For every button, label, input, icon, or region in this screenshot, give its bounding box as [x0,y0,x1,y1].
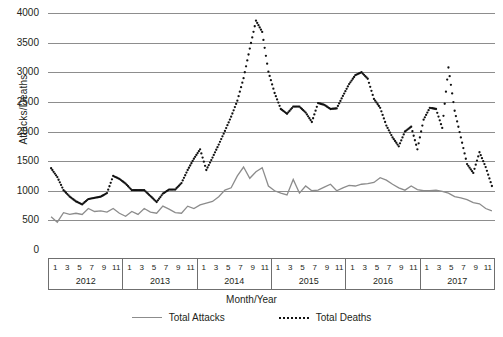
x-axis-month-label: 5 [222,261,234,275]
y-axis-tick-label: 2000 [17,127,39,137]
y-axis-tick-label: 1000 [17,186,39,196]
x-axis-month-label: 11 [184,261,196,275]
legend-label-total-deaths: Total Deaths [316,312,372,323]
x-axis-year-cell: 13579112016 [346,259,420,289]
x-axis-month-ticks: 1357911 [346,261,419,275]
series-line-0 [51,167,492,222]
x-axis-month-label: 3 [433,261,445,275]
x-axis-month-label: 5 [445,261,457,275]
series-lines [48,13,495,250]
x-axis-title: Month/Year [0,294,503,305]
x-axis-year-label: 2015 [272,274,345,289]
x-axis-month-label: 7 [86,261,98,275]
x-axis-month-label: 9 [247,261,259,275]
chart-container: Attacks/Deaths 0500100015002000250030003… [0,0,503,337]
y-axis-tick-label: 2500 [17,97,39,107]
x-axis-month-label: 11 [333,261,345,275]
x-axis-month-label: 11 [259,261,271,275]
x-axis-month-label: 11 [407,261,419,275]
x-axis-year-label: 2013 [123,274,196,289]
legend-item-total-attacks: Total Attacks [132,312,225,323]
x-axis-month-label: 5 [371,261,383,275]
x-axis-month-label: 3 [359,261,371,275]
x-axis-month-label: 1 [421,261,433,275]
x-axis-year-label: 2017 [421,274,494,289]
x-axis-year-cell: 13579112017 [421,259,494,289]
legend-item-total-deaths: Total Deaths [279,312,372,323]
x-axis-month-ticks: 1357911 [272,261,345,275]
x-axis-month-label: 1 [49,261,61,275]
y-axis-tick-label: 1500 [17,156,39,166]
x-axis-month-label: 7 [383,261,395,275]
x-axis-month-ticks: 1357911 [421,261,494,275]
x-axis-month-ticks: 1357911 [49,261,122,275]
x-axis-month-label: 1 [346,261,358,275]
x-axis-year-cell: 13579112012 [49,259,123,289]
x-axis-month-label: 11 [482,261,494,275]
x-axis-month-label: 3 [136,261,148,275]
x-axis-month-label: 3 [284,261,296,275]
x-axis-month-label: 5 [296,261,308,275]
x-axis-month-label: 9 [98,261,110,275]
y-axis-tick-labels: 05001000150020002500300035004000 [0,0,44,263]
x-axis-month-ticks: 1357911 [198,261,271,275]
x-axis-month-label: 1 [123,261,135,275]
x-axis-month-label: 7 [160,261,172,275]
x-axis-month-ticks: 1357911 [123,261,196,275]
x-axis-month-label: 5 [148,261,160,275]
x-axis-month-label: 9 [321,261,333,275]
solid-line-swatch-icon [132,317,162,318]
x-axis-month-label: 7 [234,261,246,275]
y-axis-tick-label: 3500 [17,38,39,48]
x-axis-month-label: 9 [172,261,184,275]
x-axis-month-label: 5 [73,261,85,275]
series-dots-1 [50,20,493,206]
x-axis-year-cell: 13579112015 [272,259,346,289]
x-axis-year-label: 2012 [49,274,122,289]
x-axis-month-label: 3 [61,261,73,275]
x-axis-month-label: 9 [470,261,482,275]
y-axis-tick-label: 4000 [17,8,39,18]
dotted-line-swatch-icon [279,317,309,319]
y-axis-tick-label: 500 [22,215,39,225]
x-axis-month-label: 1 [198,261,210,275]
x-axis-month-label: 11 [110,261,122,275]
x-axis-month-label: 7 [457,261,469,275]
legend-label-total-attacks: Total Attacks [169,312,225,323]
x-axis: 1357911201213579112013135791120141357911… [48,258,495,290]
x-axis-month-label: 7 [309,261,321,275]
plot-area [48,13,495,250]
y-axis-tick-label: 3000 [17,67,39,77]
x-axis-year-cell: 13579112014 [198,259,272,289]
chart-legend: Total Attacks Total Deaths [0,312,503,323]
x-axis-month-label: 3 [210,261,222,275]
x-axis-year-label: 2014 [198,274,271,289]
x-axis-year-label: 2016 [346,274,419,289]
y-axis-tick-label: 0 [33,245,39,255]
x-axis-year-cell: 13579112013 [123,259,197,289]
x-axis-month-label: 9 [395,261,407,275]
x-axis-month-label: 1 [272,261,284,275]
